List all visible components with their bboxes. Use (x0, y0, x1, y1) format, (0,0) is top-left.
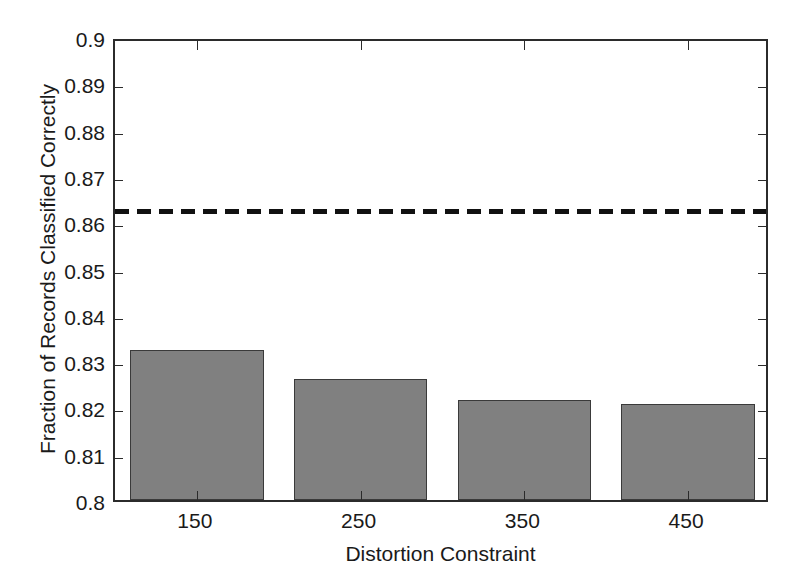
y-tick-right-0.81 (758, 458, 766, 459)
y-tick-right-0.89 (758, 87, 766, 88)
bar-250 (294, 379, 427, 500)
reference-dashed-line (115, 209, 766, 214)
x-axis-title: Distortion Constraint (113, 543, 768, 565)
y-tick-left-0.89 (115, 87, 123, 88)
y-tick-right-0.83 (758, 365, 766, 366)
y-tick-right-0.84 (758, 319, 766, 320)
x-tick-bottom-350 (524, 491, 525, 500)
y-tick-left-0.83 (115, 365, 123, 366)
y-tick-left-0.87 (115, 180, 123, 181)
bar-350 (458, 400, 591, 500)
plot-area (113, 39, 768, 502)
x-tick-top-450 (688, 41, 689, 50)
y-tick-right-0.85 (758, 273, 766, 274)
y-axis-title: Fraction of Records Classified Correctly (37, 29, 59, 509)
y-tick-left-0.81 (115, 458, 123, 459)
x-tick-top-150 (197, 41, 198, 50)
y-tick-left-0.84 (115, 319, 123, 320)
y-tick-left-0.85 (115, 273, 123, 274)
x-tick-label-150: 150 (135, 510, 255, 532)
bar-150 (130, 350, 263, 500)
bar-chart-figure: 0.80.810.820.830.840.850.860.870.880.890… (0, 0, 805, 580)
x-tick-bottom-450 (688, 491, 689, 500)
x-tick-label-250: 250 (299, 510, 419, 532)
x-tick-bottom-250 (361, 491, 362, 500)
x-tick-label-350: 350 (462, 510, 582, 532)
bar-450 (621, 404, 754, 500)
y-tick-right-0.88 (758, 134, 766, 135)
y-tick-left-0.88 (115, 134, 123, 135)
y-tick-right-0.86 (758, 226, 766, 227)
y-tick-right-0.82 (758, 411, 766, 412)
x-tick-bottom-150 (197, 491, 198, 500)
y-tick-left-0.86 (115, 226, 123, 227)
y-tick-left-0.82 (115, 411, 123, 412)
x-tick-top-250 (361, 41, 362, 50)
y-tick-right-0.87 (758, 180, 766, 181)
x-tick-label-450: 450 (626, 510, 746, 532)
x-tick-top-350 (524, 41, 525, 50)
